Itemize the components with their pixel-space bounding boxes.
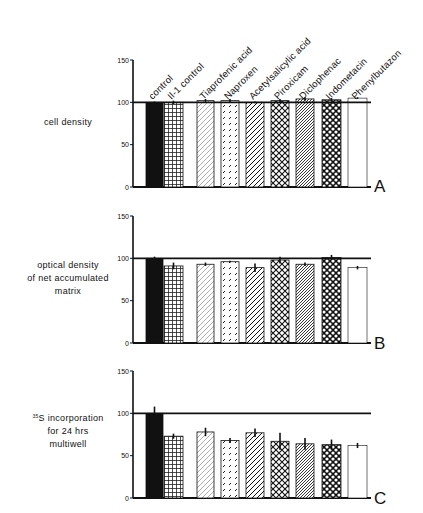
bar-chart-figure: 050100150Acell density050100150Boptical … [0, 0, 423, 513]
bar-0 [146, 102, 163, 187]
bar-8 [348, 268, 367, 343]
bar-2 [197, 264, 214, 343]
y-tick-label: 100 [117, 410, 129, 417]
y-tick-label: 50 [121, 297, 129, 304]
bar-5 [271, 441, 289, 498]
y-tick-label: 50 [121, 452, 129, 459]
panel-letter: A [374, 177, 386, 196]
panel-b: 050100150Boptical densityof net accumula… [27, 213, 385, 354]
y-axis-label: 35S incorporation [32, 413, 103, 423]
bar-8 [348, 98, 367, 187]
bar-6 [296, 444, 314, 498]
y-tick-label: 0 [125, 340, 129, 347]
bar-7 [322, 257, 341, 343]
y-tick-label: 150 [117, 57, 129, 64]
y-tick-label: 0 [125, 184, 129, 191]
panel-letter: B [374, 334, 385, 353]
y-tick-label: 150 [117, 213, 129, 220]
bar-5 [271, 101, 289, 187]
y-axis-label: optical density [37, 260, 99, 270]
y-tick-label: 100 [117, 99, 129, 106]
y-tick-label: 50 [121, 141, 129, 148]
bar-4 [246, 433, 264, 498]
y-axis-label: for 24 hrs [47, 426, 88, 436]
bar-0 [146, 413, 163, 498]
bar-7 [322, 100, 341, 187]
bar-6 [296, 264, 314, 343]
bar-8 [348, 446, 367, 498]
bar-5 [271, 260, 289, 343]
bar-7 [322, 445, 341, 498]
y-axis-label: of net accumulated [27, 273, 108, 283]
y-axis-label: multiwell [49, 439, 86, 449]
bar-1 [164, 436, 183, 498]
panel-letter: C [374, 489, 386, 508]
bar-0 [146, 258, 163, 343]
y-tick-label: 150 [117, 368, 129, 375]
bar-2 [197, 101, 214, 187]
y-tick-label: 100 [117, 255, 129, 262]
bar-4 [246, 102, 264, 187]
bar-3 [221, 440, 239, 498]
y-axis-label: matrix [55, 286, 81, 296]
bar-2 [197, 432, 214, 498]
bar-4 [246, 268, 264, 343]
category-labels: controlIl-1 controlTiaprofenic acidNapro… [146, 35, 403, 101]
bar-1 [164, 102, 183, 187]
bar-1 [164, 266, 183, 343]
panel-c: 050100150C35S incorporationfor 24 hrsmul… [32, 368, 386, 509]
y-axis-label: cell density [44, 117, 92, 127]
bar-6 [296, 99, 314, 187]
bar-3 [221, 101, 239, 187]
bar-3 [221, 262, 239, 343]
y-tick-label: 0 [125, 495, 129, 502]
